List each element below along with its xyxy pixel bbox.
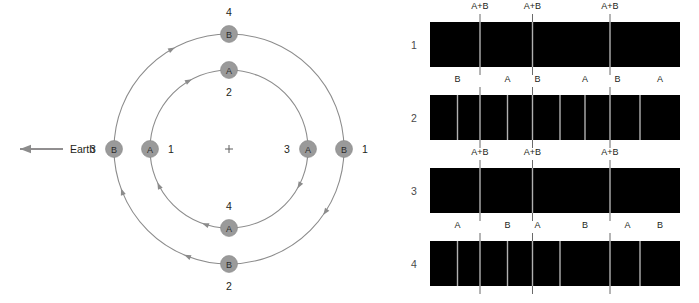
band-row-number: 1 [411,39,417,51]
band-segment-label: A [454,220,460,230]
star-a-left: A1 [142,141,175,158]
star-letter-a: A [147,145,153,155]
orbit-direction-arrow-icon [155,181,163,190]
band-diagram-svg: 1A+BA+BA+B2BABABA3A+BA+BA+B4ABABAB [400,0,699,303]
star-a-top: A2 [221,62,238,99]
orbit-direction-arrow-icon [168,45,177,53]
band-segment-label: A+B [471,1,488,11]
orbit-direction-arrow-icon [321,208,329,217]
band-row: 4ABABAB [411,220,680,294]
star-letter-a: A [226,224,232,234]
star-position-label: 2 [226,86,232,98]
orbit-direction-arrow-icon [185,77,194,85]
band-segment-label: A+B [524,147,541,157]
star-b-top: B4 [221,6,238,43]
star-position-label: 1 [362,143,368,155]
star-letter-b: B [341,145,347,155]
left-arrow-icon [20,145,31,153]
band-segment-label: A+B [601,147,618,157]
star-b-bottom: B2 [221,256,238,293]
star-position-label: 4 [226,200,232,212]
earth-observer-indicator: Earth [20,143,95,155]
star-position-label: 2 [226,280,232,292]
band-diagram-panel: 1A+BA+BA+B2BABABA3A+BA+BA+B4ABABAB [400,0,699,303]
band-row-number: 2 [411,112,417,124]
band-row: 1A+BA+BA+B [411,1,680,75]
orbit-direction-arrow-icon [201,221,209,228]
band-bar [430,22,680,67]
band-segment-label: A [504,74,510,84]
band-row: 2BABABA [411,74,680,148]
band-segment-label: B [534,74,540,84]
band-segment-label: B [657,220,663,230]
band-bar [430,168,680,213]
band-row-number: 3 [411,185,417,197]
band-segment-label: B [454,74,460,84]
orbit-direction-arrow-icon [295,181,303,190]
band-segment-label: A [582,74,588,84]
band-bar [430,241,680,286]
star-a-right: A3 [284,141,316,158]
orbit-diagram-panel: B4B3B2B1A2A1A4A3Earth [0,0,400,303]
band-segment-label: A+B [601,1,618,11]
orbit-direction-arrow-icon [118,187,125,195]
band-segment-label: A+B [471,147,488,157]
band-segment-label: B [614,74,620,84]
star-position-label: 1 [168,143,174,155]
star-letter-b: B [226,260,232,270]
band-segment-label: A [534,220,540,230]
star-position-label: 4 [226,6,232,18]
band-segment-label: A+B [524,1,541,11]
band-segment-label: A [624,220,630,230]
band-segment-label: A [657,74,663,84]
band-row-number: 4 [411,258,417,270]
star-a-bottom: A4 [221,200,238,237]
star-letter-a: A [226,66,232,76]
orbit-diagram-svg: B4B3B2B1A2A1A4A3Earth [0,0,400,303]
star-position-label: 3 [284,143,290,155]
band-segment-label: B [504,220,510,230]
band-segment-label: B [582,220,588,230]
star-letter-b: B [111,145,117,155]
star-b-right: B1 [336,141,369,158]
orbit-direction-arrow-icon [183,252,191,260]
star-letter-b: B [226,30,232,40]
band-bar [430,95,680,140]
star-letter-a: A [305,145,311,155]
earth-label: Earth [70,143,95,155]
orbit-center-marker [225,145,233,153]
band-row: 3A+BA+BA+B [411,147,680,221]
figure-root: B4B3B2B1A2A1A4A3Earth 1A+BA+BA+B2BABABA3… [0,0,699,303]
